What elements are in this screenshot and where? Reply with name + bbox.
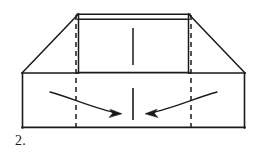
right-fold-arrow-head <box>145 109 158 117</box>
left-fold-arrow-curve <box>50 92 117 113</box>
right-fold-arrow-curve <box>150 92 217 113</box>
left-fold-arrow-head <box>109 109 122 117</box>
origami-diagram-root: 2. <box>0 0 265 153</box>
step-number-label: 2. <box>15 133 26 149</box>
right-fold-arrow <box>145 92 217 118</box>
left-fold-arrow <box>50 92 122 118</box>
right-diagonal-fold <box>189 15 245 74</box>
origami-figure <box>0 0 265 153</box>
left-diagonal-fold <box>22 15 78 74</box>
